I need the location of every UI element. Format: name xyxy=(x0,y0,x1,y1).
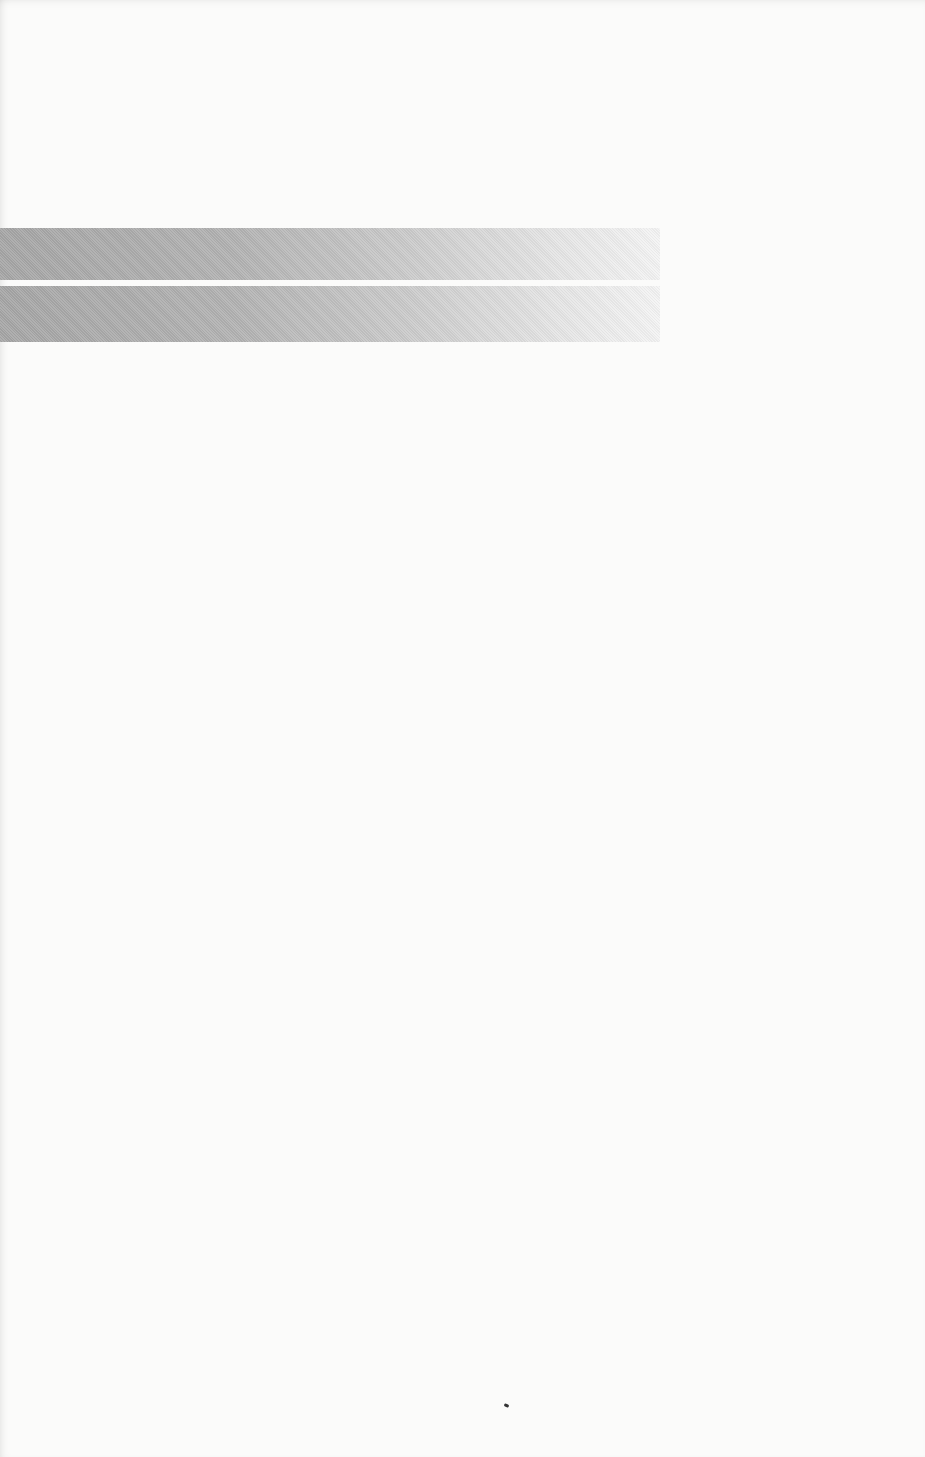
page-scan-edge xyxy=(0,0,925,1457)
gradient-bar-top xyxy=(0,228,660,280)
gradient-bar-bottom xyxy=(0,286,660,342)
scan-speck xyxy=(504,1403,510,1408)
